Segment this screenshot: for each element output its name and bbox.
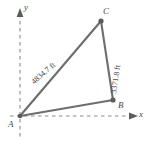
figure-canvas (0, 0, 150, 164)
vertex-marker-a (18, 114, 23, 119)
triangle-side-ac (20, 21, 101, 116)
geometry-figure: A B C x y 4834.7 ft 3371.8 ft (0, 0, 150, 164)
vertex-marker-b (110, 97, 115, 102)
x-axis-arrow-icon (129, 113, 138, 120)
x-axis-label: x (139, 110, 143, 119)
triangle-side-ab (20, 100, 113, 116)
vertex-marker-c (98, 18, 103, 23)
y-axis-label: y (24, 3, 28, 12)
vertex-label-c: C (103, 7, 109, 16)
vertex-label-b: B (118, 101, 124, 110)
vertex-label-a: A (8, 120, 14, 129)
y-axis-arrow-icon (17, 8, 24, 17)
